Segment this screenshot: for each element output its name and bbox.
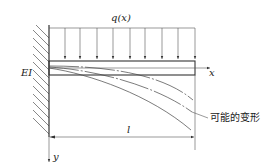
x-axis-label: x bbox=[209, 68, 215, 78]
y-axis-label: y bbox=[53, 152, 59, 162]
stiffness-label: EI bbox=[21, 68, 32, 78]
possible-deformation-curves bbox=[49, 66, 193, 130]
load-label: q(x) bbox=[111, 13, 131, 23]
length-label: l bbox=[127, 125, 130, 135]
deformation-leader-line bbox=[192, 112, 208, 118]
fixed-wall-hatching bbox=[33, 25, 49, 134]
distributed-load-arrows bbox=[49, 28, 195, 59]
deformation-note: 可能的变形 bbox=[210, 113, 260, 123]
beam-diagram bbox=[0, 0, 273, 168]
